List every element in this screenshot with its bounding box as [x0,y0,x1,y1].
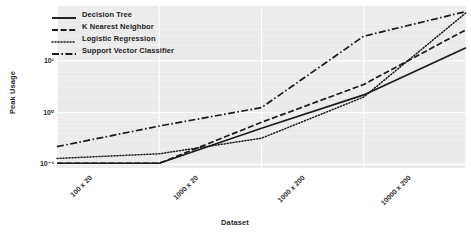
legend-swatch-icon [51,45,77,55]
legend-label: Logistic Regression [82,34,156,43]
legend-item-logistic-regression: Logistic Regression [51,32,174,44]
legend-swatch-icon [51,33,77,43]
legend-swatch-icon [51,21,77,31]
legend-label: K Nearest Neighbor [82,22,154,31]
legend-swatch-icon [51,9,77,19]
legend-item-support-vector-classifier: Support Vector Classifier [51,44,174,56]
chart-legend: Decision TreeK Nearest NeighborLogistic … [47,6,178,59]
legend-item-decision-tree: Decision Tree [51,8,174,20]
x-axis-label: Dataset [180,218,290,227]
legend-item-k-nearest-neighbor: K Nearest Neighbor [51,20,174,32]
legend-label: Decision Tree [82,10,132,19]
chart-figure: Peak Usage 10¹ 10⁰ 10⁻¹ 100 x 201000 x 2… [0,0,471,238]
legend-label: Support Vector Classifier [82,46,174,55]
